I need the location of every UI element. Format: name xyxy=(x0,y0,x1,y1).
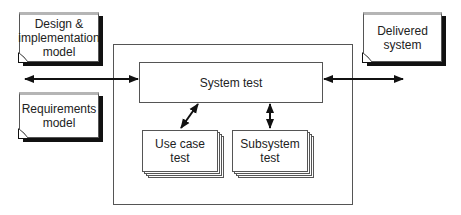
connection-arrows xyxy=(0,0,461,215)
system-test-use-case-arrow xyxy=(181,104,198,128)
